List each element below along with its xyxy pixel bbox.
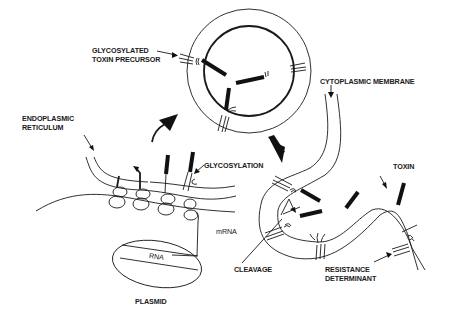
label-toxin: TOXIN: [393, 162, 414, 171]
toxin-rods: [300, 176, 404, 216]
label-line-2: DETERMINANT: [325, 274, 376, 283]
label-endoplasmic-reticulum: ENDOPLASMICRETICULUM: [22, 114, 74, 132]
precursor-rod-2: [236, 77, 264, 83]
label-resistance-determinant: RESISTANCEDETERMINANT: [325, 265, 376, 283]
label-glycosylated-precursor: GLYCOSYLATEDTOXIN PRECURSOR: [92, 46, 160, 64]
label-line-1: RESISTANCE: [325, 265, 370, 274]
label-line-1: ENDOPLASMIC: [22, 114, 74, 123]
cytoplasmic-membrane: [242, 85, 425, 270]
label-line-2: RETICULUM: [22, 123, 63, 132]
label-cleavage: CLEAVAGE: [234, 265, 272, 274]
label-cytoplasmic-membrane: CYTOPLASMIC MEMBRANE: [320, 77, 415, 86]
plasmid: [109, 234, 205, 294]
label-glycosylation: GLYCOSYLATION: [204, 161, 263, 170]
label-mrna: mRNA: [216, 227, 237, 236]
precursor-rod-3: [226, 88, 229, 110]
label-plasmid: PLASMID: [135, 297, 167, 306]
precursor-rod-1: [202, 60, 226, 75]
endoplasmic-reticulum: [36, 135, 236, 212]
label-rna: RNA: [148, 251, 164, 262]
label-line-1: GLYCOSYLATED: [92, 46, 149, 55]
diagram-canvas: [0, 0, 457, 316]
label-line-2: TOXIN PRECURSOR: [92, 55, 160, 64]
vesicle-pore-right: [290, 63, 306, 72]
arrow-vesicle-to-membrane-icon: [268, 135, 285, 163]
ribosomes: [109, 187, 198, 220]
vesicle: [179, 9, 311, 133]
arrow-er-to-vesicle-icon: [152, 114, 178, 142]
vesicle-pore-left: [179, 54, 194, 64]
